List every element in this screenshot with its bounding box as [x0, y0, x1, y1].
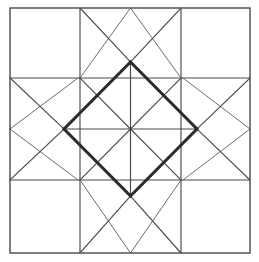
center-pinwheel	[64, 62, 197, 196]
canvas-background	[0, 0, 259, 262]
block-drawing-canvas	[0, 0, 259, 262]
quilt-block-diagram	[0, 0, 259, 262]
